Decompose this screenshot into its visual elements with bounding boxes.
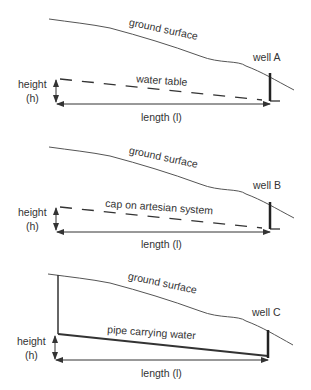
well-label: well B <box>252 179 281 191</box>
height-symbol: (h) <box>25 349 38 361</box>
ground-surface-label: ground surface <box>127 269 198 295</box>
ground-surface-label: ground surface <box>128 144 199 170</box>
panel-well-a: ground surface well A water table height… <box>18 16 294 123</box>
height-label: height <box>17 335 46 347</box>
well-label: well C <box>251 306 281 318</box>
length-label: length (l) <box>141 111 182 123</box>
well-label: well A <box>252 51 280 63</box>
height-label: height <box>18 206 47 218</box>
panel-well-c: ground surface well C pipe carrying wate… <box>17 269 293 379</box>
length-label: length (l) <box>141 238 182 250</box>
length-label: length (l) <box>141 367 182 379</box>
ground-surface-label: ground surface <box>128 16 199 42</box>
water-table-label: water table <box>135 72 188 88</box>
panel-well-b: ground surface well B cap on artesian sy… <box>18 144 294 250</box>
height-label: height <box>18 78 47 90</box>
height-symbol: (h) <box>26 92 39 104</box>
artesian-cap-label: cap on artesian system <box>105 197 214 217</box>
pipe-label: pipe carrying water <box>107 323 197 341</box>
diagram-canvas: ground surface well A water table height… <box>0 0 311 390</box>
height-symbol: (h) <box>26 220 39 232</box>
